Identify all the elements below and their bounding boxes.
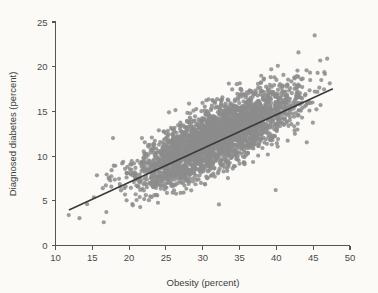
scatter-point	[156, 201, 160, 205]
scatter-point	[138, 195, 142, 199]
scatter-point	[314, 107, 318, 111]
scatter-point	[235, 147, 239, 151]
scatter-point	[199, 181, 203, 185]
scatter-point	[318, 103, 322, 107]
y-tick-label: 0	[42, 240, 47, 251]
scatter-point	[123, 167, 127, 171]
scatter-point	[278, 95, 282, 99]
scatter-point	[189, 124, 193, 128]
scatter-point	[224, 118, 228, 122]
scatter-point	[130, 202, 134, 206]
scatter-point	[206, 169, 210, 173]
scatter-point	[251, 160, 255, 164]
scatter-point	[223, 125, 227, 129]
scatter-point	[212, 166, 216, 170]
scatter-point	[226, 176, 230, 180]
scatter-point	[259, 74, 263, 78]
scatter-point	[206, 120, 210, 124]
scatter-point	[146, 153, 150, 157]
scatter-point	[170, 127, 174, 131]
scatter-point	[270, 142, 274, 146]
scatter-point	[284, 104, 288, 108]
scatter-point	[253, 109, 257, 113]
scatter-point	[272, 75, 276, 79]
scatter-point	[239, 147, 243, 151]
scatter-point	[200, 163, 204, 167]
scatter-point	[256, 154, 260, 158]
scatter-point	[109, 185, 113, 189]
scatter-point	[272, 122, 276, 126]
scatter-point	[232, 137, 236, 141]
scatter-point	[292, 115, 296, 119]
scatter-point	[258, 134, 262, 138]
scatter-point	[264, 137, 268, 141]
scatter-point	[219, 158, 223, 162]
scatter-point	[272, 83, 276, 87]
scatter-point	[252, 92, 256, 96]
scatter-point	[249, 100, 253, 104]
scatter-point	[217, 202, 221, 206]
scatter-point	[172, 152, 176, 156]
scatter-point	[179, 129, 183, 133]
x-tick-label: 20	[124, 252, 135, 263]
scatter-point	[95, 173, 99, 177]
scatter-point	[160, 177, 164, 181]
scatter-point	[241, 99, 245, 103]
scatter-point	[304, 68, 308, 72]
scatter-point	[209, 106, 213, 110]
scatter-point	[266, 152, 270, 156]
scatter-point	[274, 188, 278, 192]
scatter-point	[187, 172, 191, 176]
scatter-point	[328, 81, 332, 85]
scatter-point	[204, 113, 208, 117]
scatter-point	[201, 117, 205, 121]
scatter-point	[188, 148, 192, 152]
scatter-point	[145, 182, 149, 186]
scatter-point	[142, 188, 146, 192]
scatter-point	[153, 153, 157, 157]
scatter-point	[236, 106, 240, 110]
scatter-point	[128, 167, 132, 171]
scatter-point	[300, 116, 304, 120]
scatter-point	[276, 137, 280, 141]
scatter-point	[230, 87, 234, 91]
scatter-point	[194, 127, 198, 131]
scatter-point	[276, 120, 280, 124]
scatter-point	[150, 195, 154, 199]
scatter-point	[238, 162, 242, 166]
scatter-point	[203, 182, 207, 186]
scatter-point	[134, 192, 138, 196]
scatter-point	[265, 142, 269, 146]
scatter-point	[157, 143, 161, 147]
scatter-point	[170, 165, 174, 169]
scatter-point	[165, 135, 169, 139]
scatter-point	[206, 175, 210, 179]
scatter-point	[155, 181, 159, 185]
scatter-point	[235, 82, 239, 86]
scatter-point	[187, 182, 191, 186]
scatter-point	[222, 104, 226, 108]
scatter-point	[185, 158, 189, 162]
scatter-point	[124, 198, 128, 202]
scatter-point	[292, 75, 296, 79]
scatter-point	[202, 126, 206, 130]
scatter-point	[111, 136, 115, 140]
scatter-point	[276, 64, 280, 68]
scatter-point	[153, 139, 157, 143]
scatter-point	[232, 106, 236, 110]
scatter-point	[256, 82, 260, 86]
scatter-point	[286, 139, 290, 143]
scatter-point	[213, 128, 217, 132]
scatter-point	[203, 137, 207, 141]
y-tick-label: 15	[37, 106, 48, 117]
scatter-point	[165, 149, 169, 153]
scatter-point	[281, 98, 285, 102]
scatter-plot-figure: 0510152025 101520253035404550 Obesity (p…	[0, 0, 378, 293]
scatter-point	[179, 181, 183, 185]
scatter-point	[150, 166, 154, 170]
scatter-point	[227, 82, 231, 86]
scatter-point	[253, 89, 257, 93]
scatter-point	[199, 122, 203, 126]
scatter-point	[295, 68, 299, 72]
scatter-point	[313, 33, 317, 37]
